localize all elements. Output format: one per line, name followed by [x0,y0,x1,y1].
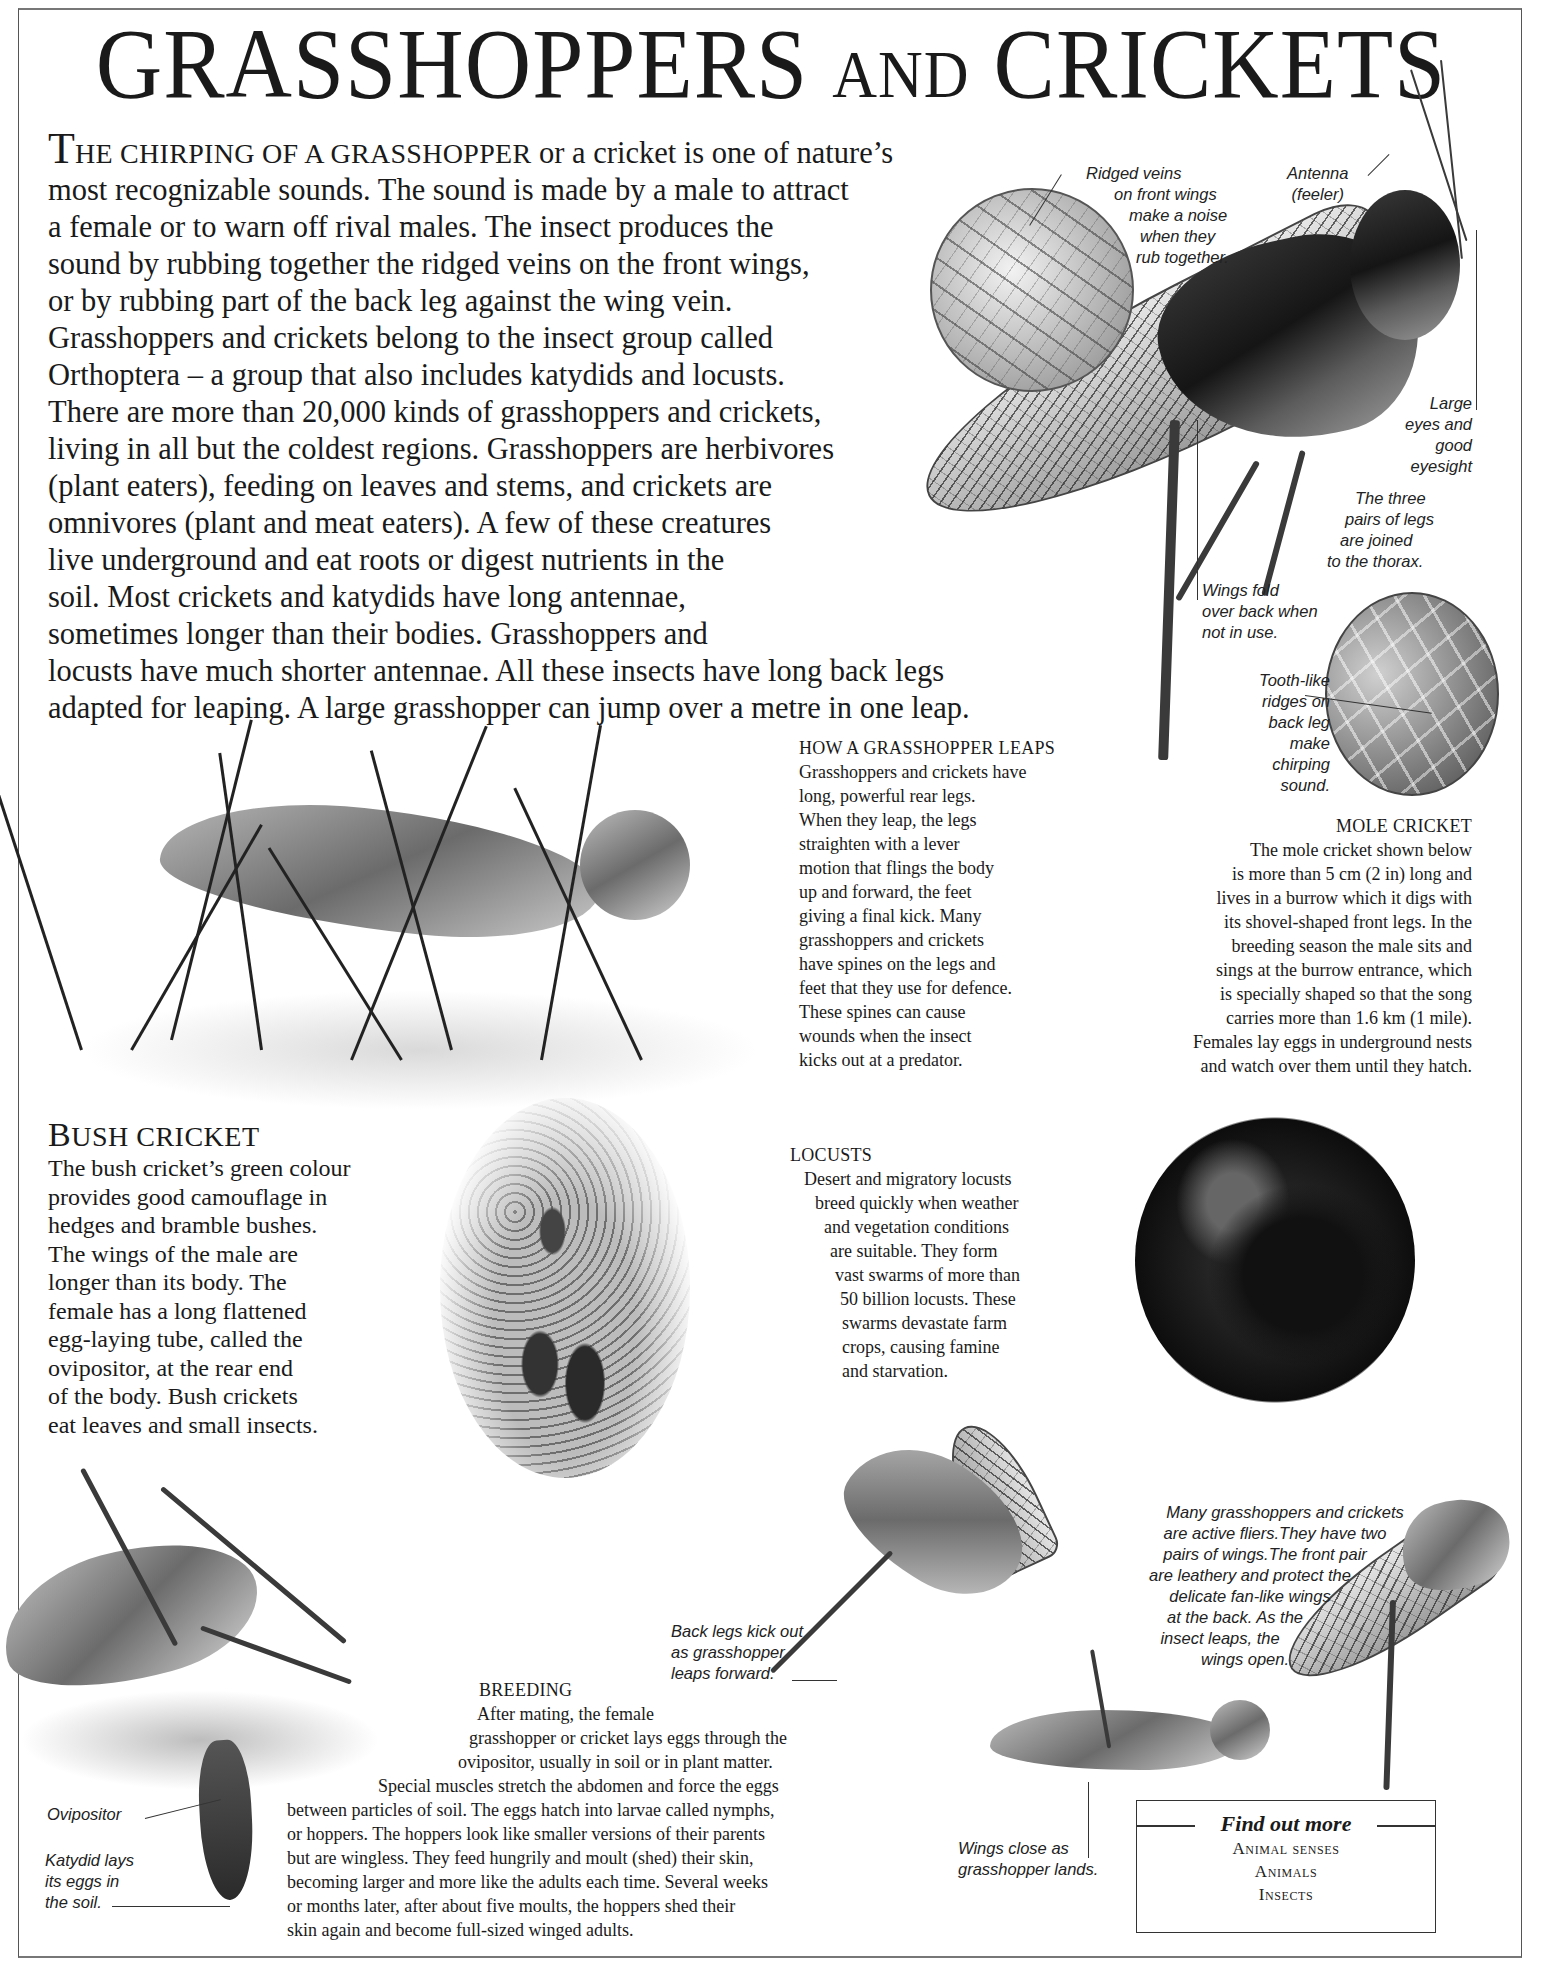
caption-ridged-veins: Ridged veins on front wings make a noise… [1086,163,1229,268]
section-how-grasshopper-leaps: HOW A GRASSHOPPER LEAPS Grasshoppers and… [799,736,1055,1072]
intro-line: or by rubbing part of the back leg again… [48,283,1138,320]
caption-tooth-ridges: Tooth-like ridges on back leg make chirp… [1205,670,1330,796]
intro-line: live underground and eat roots or digest… [48,542,1138,579]
find-out-more-heading: Find out more [1137,1811,1435,1837]
cricket-in-grass [155,787,605,952]
intro-line: sometimes longer than their bodies. Gras… [48,616,1138,653]
section-heading: BUSH CRICKET [48,1118,351,1154]
caption-katydid-lays: Katydid lays its eggs in the soil. [45,1850,134,1913]
intro-paragraph: THE CHIRPING OF A GRASSHOPPER or a crick… [48,130,1138,727]
caption-wings-close: Wings close as grasshopper lands. [958,1838,1098,1880]
caption-active-fliers: Many grasshoppers and crickets are activ… [1105,1502,1425,1670]
leader-line [1088,1782,1089,1858]
section-heading: BREEDING [287,1678,787,1702]
section-heading: HOW A GRASSHOPPER LEAPS [799,736,1055,760]
section-locusts: LOCUSTS Desert and migratory locusts bre… [790,1143,1020,1383]
caption-large-eyes: Large eyes and good eyesight [1380,393,1472,477]
caption-wings-fold: Wings fold over back when not in use. [1202,580,1318,643]
intro-line: locusts have much shorter antennae. All … [48,653,1138,690]
caption-back-legs-kick: Back legs kick out as grasshopper leaps … [671,1621,803,1684]
link-animal-senses[interactable]: Animal senses [1137,1837,1435,1860]
section-bush-cricket: BUSH CRICKET The bush cricket’s green co… [48,1118,351,1439]
intro-line: omnivores (plant and meat eaters). A few… [48,505,1138,542]
grass-cricket-illustration [20,690,760,1130]
caption-three-pairs: The three pairs of legs are joined to th… [1327,488,1434,572]
intro-line: adapted for leaping. A large grasshopper… [48,690,1138,727]
section-breeding: BREEDING After mating, the female grassh… [287,1678,787,1942]
intro-line: There are more than 20,000 kinds of gras… [48,394,1138,431]
intro-caps-lead: HE CHIRPING OF A GRASSHOPPER [75,138,532,169]
intro-line: soil. Most crickets and katydids have lo… [48,579,1138,616]
intro-line: Grasshoppers and crickets belong to the … [48,320,1138,357]
leader-line [1197,420,1198,600]
intro-line: living in all but the coldest regions. G… [48,431,1138,468]
intro-line: a female or to warn off rival males. The… [48,209,1138,246]
locust-swarm-photo [440,1098,690,1478]
find-out-more-box: Find out more Animal senses Animals Inse… [1136,1800,1436,1933]
intro-line: Orthoptera – a group that also includes … [48,357,1138,394]
title-main: GRASSHOPPERS [96,9,809,119]
caption-ovipositor: Ovipositor [47,1804,121,1825]
leader-line [112,1906,230,1907]
caption-antenna: Antenna (feeler) [1287,163,1348,205]
leader-line [1476,230,1477,410]
grasshopper-head [1350,190,1460,340]
intro-line: sound by rubbing together the ridged vei… [48,246,1138,283]
section-mole-cricket: MOLE CRICKET The mole cricket shown belo… [1100,814,1472,1078]
section-heading: MOLE CRICKET [1100,814,1472,838]
intro-line: (plant eaters), feeding on leaves and st… [48,468,1138,505]
section-heading: LOCUSTS [790,1143,1020,1167]
leader-line [792,1680,837,1681]
landing-grasshopper-illustration [990,1650,1290,1800]
intro-line: most recognizable sounds. The sound is m… [48,172,1138,209]
intro-dropcap: T [48,124,75,173]
leg-ridges-closeup [1325,592,1499,796]
mole-cricket-photo [1135,1115,1415,1405]
link-animals[interactable]: Animals [1137,1860,1435,1883]
link-insects[interactable]: Insects [1137,1883,1435,1906]
